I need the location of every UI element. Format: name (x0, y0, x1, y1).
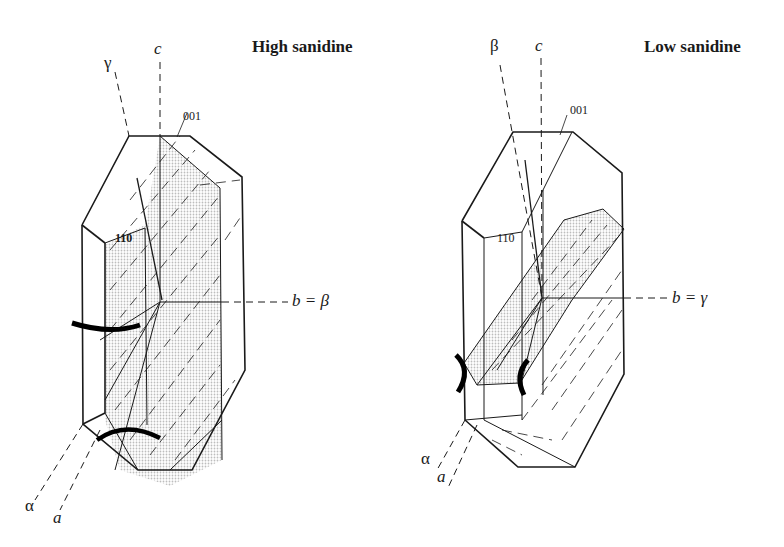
a-axis-line (447, 425, 477, 490)
high-sanidine-crystal-drawing (0, 0, 392, 547)
label-alpha: α (25, 497, 34, 514)
alpha-axis-line (437, 420, 465, 470)
label-face-110: 110 (497, 232, 515, 244)
low-sanidine-crystal-drawing (392, 0, 784, 547)
panel-title: Low sanidine (644, 37, 741, 57)
label-face-001: 001 (570, 104, 588, 116)
gamma-axis-line (115, 72, 129, 136)
label-c-axis: c (535, 37, 543, 54)
label-b-gamma: b = γ (672, 289, 707, 306)
optic-plane-shading (105, 136, 222, 486)
label-face-001: 001 (183, 110, 201, 122)
label-gamma: γ (104, 54, 112, 71)
label-alpha: α (421, 450, 430, 467)
panel-title: High sanidine (252, 37, 353, 57)
a-axis-line (60, 430, 100, 510)
alpha-axis-line (35, 424, 83, 500)
label-c-axis: c (154, 40, 162, 57)
label-beta: β (490, 37, 499, 54)
rotation-arrow-left (456, 355, 465, 392)
label-a-axis: a (53, 509, 62, 526)
label-face-110: 110 (115, 232, 132, 244)
label-a-axis: a (437, 468, 446, 485)
panel-high-sanidine: High sanidine c γ 001 110 b = β α a (0, 0, 392, 547)
panel-low-sanidine: Low sanidine c β 001 110 b = γ α a (392, 0, 784, 547)
label-b-beta: b = β (292, 292, 329, 309)
optic-plane-shading (464, 209, 624, 385)
